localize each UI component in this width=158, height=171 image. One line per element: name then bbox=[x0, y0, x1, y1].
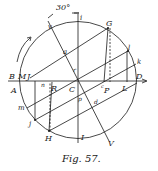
label-i: i bbox=[80, 14, 82, 22]
label-A: A bbox=[10, 86, 17, 95]
point-H bbox=[48, 130, 50, 132]
label-d: d bbox=[94, 98, 98, 105]
label-G: G bbox=[106, 19, 113, 28]
figure-caption: Fig. 57. bbox=[61, 153, 101, 164]
chord-J-G bbox=[30, 28, 108, 78]
label-I: I bbox=[80, 133, 85, 142]
angle-marker bbox=[48, 14, 53, 18]
proj-G-P bbox=[104, 28, 108, 82]
label-k: k bbox=[137, 58, 141, 66]
label-n: n bbox=[41, 81, 45, 88]
label-H: H bbox=[44, 134, 53, 143]
label-L: L bbox=[121, 84, 127, 93]
label-C: C bbox=[69, 85, 75, 94]
label-P: P bbox=[103, 86, 110, 95]
point-j bbox=[34, 119, 36, 121]
angle-label: 30° bbox=[56, 3, 70, 12]
label-p: p bbox=[78, 95, 82, 103]
label-M: M bbox=[17, 72, 27, 81]
label-r: r bbox=[73, 66, 77, 73]
label-a: a bbox=[63, 48, 67, 56]
label-m: m bbox=[18, 104, 25, 112]
label-B: B bbox=[8, 72, 15, 81]
label-j: j bbox=[27, 120, 32, 128]
label-D: D bbox=[135, 72, 143, 81]
label-l: l bbox=[128, 44, 130, 52]
figure-57-diagram: 30° i v G l k a r B M J D A n R C c P L … bbox=[0, 0, 158, 171]
label-v: v bbox=[48, 23, 52, 31]
label-R: R bbox=[50, 84, 57, 93]
label-V: V bbox=[108, 139, 115, 148]
